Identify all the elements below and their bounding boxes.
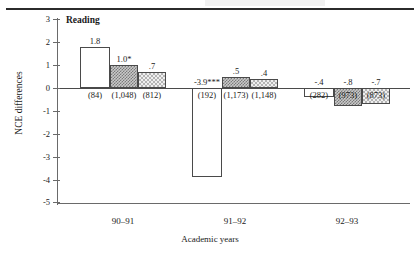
y-tick-mark [53, 157, 60, 158]
y-tick-label: -3 [0, 153, 50, 162]
y-tick-label: -1 [0, 107, 50, 116]
y-tick-label: -5 [0, 198, 50, 207]
x-category-label: 90–91 [83, 216, 163, 226]
x-axis-title: Academic years [0, 234, 420, 244]
y-tick-label: 0 [0, 84, 50, 93]
bar-91-92-dark-hatched [222, 77, 250, 88]
x-category-label: 91–92 [195, 216, 275, 226]
y-tick-mark [53, 88, 60, 89]
bar-91-92-light-hatched [250, 79, 278, 88]
bar-sample-size-label: (1,148) [240, 91, 288, 100]
bar-90-91-light-hatched [138, 72, 166, 88]
x-axis-baseline [57, 203, 410, 204]
y-tick-mark [53, 111, 60, 112]
y-tick-label: 2 [0, 38, 50, 47]
y-tick-label: -2 [0, 130, 50, 139]
y-tick-mark [53, 65, 60, 66]
page-artifact [205, 0, 325, 6]
y-tick-mark [53, 180, 60, 181]
bar-value-label: .4 [236, 69, 292, 78]
y-tick-mark [53, 42, 60, 43]
bar-sample-size-label: (812) [128, 91, 176, 100]
x-category-label: 92–93 [307, 216, 387, 226]
panel-title: Reading [66, 15, 100, 25]
y-tick-mark [53, 202, 60, 203]
bar-90-91-open [80, 47, 110, 88]
bar-value-label: -.7 [348, 78, 404, 87]
y-tick-mark [53, 19, 60, 20]
bar-91-92-open [192, 88, 222, 177]
figure-reading-nce-differences: Reading NCE differences 3210-1-2-3-4-5 1… [0, 0, 420, 263]
y-tick-label: 3 [0, 15, 50, 24]
y-tick-mark [53, 134, 60, 135]
y-tick-label: -4 [0, 176, 50, 185]
bar-value-label: .7 [124, 62, 180, 71]
top-divider-rule [6, 8, 414, 10]
bar-sample-size-label: (873) [352, 91, 400, 100]
y-tick-label: 1 [0, 61, 50, 70]
bar-value-label: 1.8 [66, 37, 124, 46]
